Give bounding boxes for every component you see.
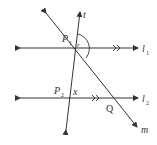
- label-Q: Q: [106, 103, 114, 114]
- label-P1: P: [61, 33, 68, 44]
- label-l2: l: [142, 93, 145, 104]
- label-l2-sub: 2: [146, 100, 149, 106]
- label-m: m: [141, 124, 148, 135]
- label-P2-sub: 2: [61, 92, 64, 98]
- label-angle-x: x: [72, 86, 78, 97]
- line-t: [66, 12, 80, 130]
- label-l1: l: [142, 43, 145, 54]
- label-P1-sub: 1: [69, 40, 72, 46]
- label-t: t: [83, 9, 86, 20]
- line-m: [46, 13, 137, 127]
- parallel-lines-diagram: t l 1 l 2 m P 1 P 2 Q r x: [0, 0, 157, 145]
- label-P2: P: [53, 85, 60, 96]
- label-l1-sub: 1: [146, 50, 149, 56]
- label-angle-r: r: [77, 41, 80, 49]
